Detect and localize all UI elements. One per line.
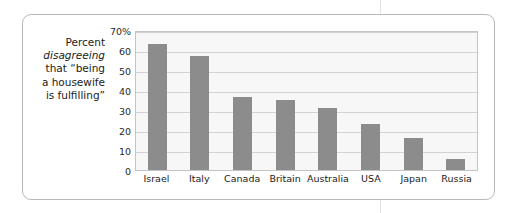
caption-line-3: that “being: [30, 62, 105, 75]
x-tick-label-israel: Israel: [135, 173, 178, 184]
bar-slot-australia: [307, 32, 350, 170]
x-tick-label-japan: Japan: [392, 173, 435, 184]
y-tick-label-40: 40: [96, 86, 131, 97]
y-tick-label-50: 50: [96, 66, 131, 77]
bar-italy: [190, 56, 209, 170]
x-tick-label-britain: Britain: [264, 173, 307, 184]
y-axis: 70%6050403020100: [96, 31, 131, 171]
bar-russia: [446, 159, 465, 170]
plot-area: [135, 31, 478, 171]
x-tick-label-australia: Australia: [307, 173, 350, 184]
x-tick-label-usa: USA: [349, 173, 392, 184]
caption-line-4: a housewife: [30, 76, 105, 89]
plot-wrapper: [135, 31, 478, 171]
bar-usa: [361, 124, 380, 170]
bar-slot-italy: [179, 32, 222, 170]
y-tick-label-20: 20: [96, 126, 131, 137]
bars-layer: [136, 32, 477, 170]
caption-line-5: is fulfilling”: [30, 89, 105, 102]
bar-slot-russia: [434, 32, 477, 170]
caption-line-1: Percent: [30, 36, 105, 49]
x-tick-label-canada: Canada: [221, 173, 264, 184]
caption-line-2: disagreeing: [30, 49, 105, 62]
bar-slot-japan: [392, 32, 435, 170]
bar-slot-usa: [349, 32, 392, 170]
x-axis: IsraelItalyCanadaBritainAustraliaUSAJapa…: [135, 173, 478, 184]
bar-japan: [404, 138, 423, 170]
y-tick-label-30: 30: [96, 106, 131, 117]
y-tick-label-70: 70%: [96, 26, 131, 37]
bar-canada: [233, 97, 252, 170]
x-tick-label-italy: Italy: [178, 173, 221, 184]
y-tick-label-10: 10: [96, 146, 131, 157]
bar-slot-britain: [264, 32, 307, 170]
bar-slot-israel: [136, 32, 179, 170]
bar-slot-canada: [221, 32, 264, 170]
bar-australia: [318, 108, 337, 170]
bar-israel: [148, 44, 167, 170]
chart-caption: Percent disagreeing that “being a housew…: [30, 36, 105, 102]
y-tick-label-60: 60: [96, 46, 131, 57]
y-tick-label-0: 0: [96, 166, 131, 177]
x-tick-label-russia: Russia: [435, 173, 478, 184]
bar-britain: [276, 100, 295, 170]
